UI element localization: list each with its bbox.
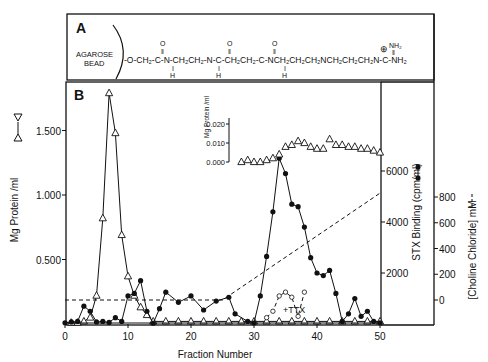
figure: A AGAROSE BEAD -O-CH₂-C-N-CH₂CH₂-N-C-CH₂… <box>0 0 488 362</box>
data-point-filled <box>157 306 162 311</box>
data-point-triangle <box>326 135 333 142</box>
data-point-filled <box>81 304 86 309</box>
data-point-triangle <box>276 150 283 157</box>
data-point-triangle <box>99 214 106 221</box>
data-point-filled <box>270 209 275 214</box>
left-tick-label: 0.500 <box>36 255 61 266</box>
bead-surface-arc <box>113 25 123 79</box>
x-tick-label: 0 <box>62 331 68 342</box>
data-point-triangle <box>351 143 358 150</box>
data-point-triangle <box>376 149 383 156</box>
data-point-filled <box>132 291 137 296</box>
data-point-triangle <box>238 158 245 165</box>
data-point-filled <box>352 296 357 301</box>
data-point-open <box>290 295 294 299</box>
data-point-filled <box>333 291 338 296</box>
series-line <box>71 93 380 323</box>
data-point-open <box>302 290 306 294</box>
data-point-filled <box>296 204 301 209</box>
data-point-filled <box>327 268 332 273</box>
data-point-triangle <box>282 143 289 150</box>
data-point-filled <box>233 311 238 316</box>
data-point-triangle <box>93 292 100 299</box>
data-point-filled <box>365 309 370 314</box>
nh2-top: NH₂ <box>389 42 402 49</box>
data-point-filled <box>113 315 118 320</box>
data-point-filled <box>308 255 313 260</box>
data-point-filled <box>94 319 99 324</box>
linker-structure: -O-CH₂-C-N-CH₂CH₂-N-C-CH₂CH₂-C-NCH₂CH₂CH… <box>124 40 407 79</box>
x-tick-label: 40 <box>311 331 323 342</box>
nh-h-3: I <box>284 65 286 72</box>
data-point-triangle <box>250 158 257 165</box>
h-2: H <box>216 72 221 79</box>
data-point-filled <box>289 202 294 207</box>
left-axis-label: Mg Protein /ml <box>9 178 20 242</box>
panel-a-label: A <box>76 20 86 36</box>
chart-area: 010203040500.5001.0001.50020004000600002… <box>36 89 456 342</box>
double-bond-1: ‖ <box>161 48 164 55</box>
panel-b-label: B <box>74 87 84 103</box>
data-point-open <box>277 294 281 298</box>
data-point-filled <box>264 254 269 259</box>
choline-tick-label: 200 <box>439 269 456 280</box>
bead-label: BEAD <box>84 59 105 68</box>
data-point-open <box>264 315 268 319</box>
left-tick-label: 1.000 <box>36 190 61 201</box>
data-point-filled <box>214 298 219 303</box>
data-point-open <box>271 309 275 313</box>
data-point-triangle <box>307 143 314 150</box>
stx-tick-label: 4000 <box>386 217 409 228</box>
data-point-open <box>283 290 287 294</box>
data-point-triangle <box>301 139 308 146</box>
data-point-filled <box>188 293 193 298</box>
data-point-triangle <box>269 154 276 161</box>
data-point-filled <box>359 314 364 319</box>
inset-tick-label: 0.010 <box>206 139 225 148</box>
choline-tick-label: 600 <box>439 218 456 229</box>
choline-tick-label: 800 <box>439 192 456 203</box>
choline-tick-label: 0 <box>439 295 445 306</box>
data-point-triangle <box>313 145 320 152</box>
data-point-triangle <box>358 145 365 152</box>
data-point-filled <box>283 171 288 176</box>
data-point-triangle <box>339 141 346 148</box>
data-point-triangle <box>345 143 352 150</box>
carbonyl-o-2: O <box>227 40 233 47</box>
data-point-triangle <box>364 145 371 152</box>
data-point-triangle <box>244 156 251 163</box>
choline-axis-label: [Choline Chloride] mM <box>467 201 478 300</box>
data-point-triangle <box>263 156 270 163</box>
double-bond-3: ‖ <box>273 48 276 55</box>
x-axis-label: Fraction Number <box>178 349 253 360</box>
inset-tick-label: 0.000 <box>206 158 225 167</box>
data-point-triangle <box>112 129 119 136</box>
x-tick-label: 10 <box>122 331 134 342</box>
data-point-filled <box>69 319 74 324</box>
data-point-filled <box>302 225 307 230</box>
double-bond-2: ‖ <box>228 48 231 55</box>
ttx-annotation: +TTX <box>283 305 305 315</box>
positive-charge-icon: ⊕ <box>380 44 388 54</box>
h-1: H <box>170 72 175 79</box>
carbonyl-o-1: O <box>160 40 166 47</box>
panel-a-frame <box>67 14 434 80</box>
data-point-filled <box>107 320 112 325</box>
nh-h-2: I <box>218 65 220 72</box>
data-point-triangle <box>370 147 377 154</box>
left-legend-icon <box>14 114 22 141</box>
panel-a: A AGAROSE BEAD -O-CH₂-C-N-CH₂CH₂-N-C-CH₂… <box>67 14 434 80</box>
choline-tick-label: 400 <box>439 244 456 255</box>
series-line <box>65 193 380 300</box>
x-tick-label: 50 <box>374 331 386 342</box>
carbonyl-o-3: O <box>272 40 278 47</box>
data-point-filled <box>176 300 181 305</box>
inset-ylabel: Mg Protein /ml <box>203 95 211 137</box>
data-point-filled <box>88 309 93 314</box>
data-point-filled <box>346 311 351 316</box>
data-point-triangle <box>106 89 113 96</box>
data-point-filled <box>258 293 263 298</box>
data-point-filled <box>138 278 143 283</box>
data-point-filled <box>314 270 319 275</box>
stx-tick-label: 2000 <box>386 268 409 279</box>
